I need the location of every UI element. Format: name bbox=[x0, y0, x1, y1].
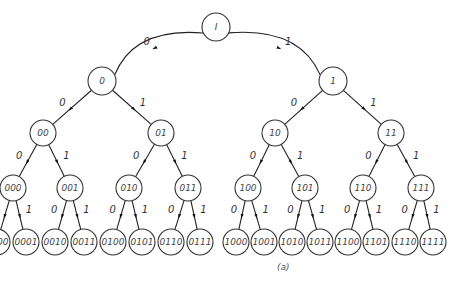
node-label: 01 bbox=[155, 128, 166, 138]
tree-node: 1011 bbox=[307, 229, 333, 255]
tree-edge bbox=[167, 145, 183, 177]
edge-label: 1 bbox=[319, 204, 325, 215]
edge-label: 1 bbox=[181, 150, 187, 161]
tree-node: 0101 bbox=[129, 229, 155, 255]
edge-label: 1 bbox=[285, 36, 291, 47]
node-label: 101 bbox=[296, 183, 313, 193]
tree-edge bbox=[252, 200, 261, 229]
tree-node: 0000 bbox=[0, 229, 10, 255]
tree-node: 10 bbox=[262, 120, 288, 146]
tree-node: 011 bbox=[175, 175, 201, 201]
tree-node: 01 bbox=[148, 120, 174, 146]
node-label: 1 bbox=[330, 76, 336, 86]
edge-label: 0 bbox=[291, 97, 297, 108]
node-label: 0001 bbox=[15, 237, 38, 247]
tree-node: 0011 bbox=[71, 229, 97, 255]
tree-node: 110 bbox=[350, 175, 376, 201]
tree-edge bbox=[16, 201, 23, 230]
edge-label: 1 bbox=[376, 204, 382, 215]
node-label: 0111 bbox=[189, 237, 212, 247]
tree-edge bbox=[351, 201, 359, 230]
edge-label: 1 bbox=[433, 204, 439, 215]
tree-node: 001 bbox=[57, 175, 83, 201]
edge-label: 0 bbox=[133, 150, 139, 161]
edge-label: 0 bbox=[365, 150, 371, 161]
node-label: 0110 bbox=[160, 237, 183, 247]
node-label: 0101 bbox=[131, 237, 154, 247]
tree-edge bbox=[366, 201, 373, 230]
edge-label: 0 bbox=[344, 204, 350, 215]
arrow-icon bbox=[276, 47, 279, 48]
node-label: 0100 bbox=[102, 237, 125, 247]
figure-caption: (a) bbox=[277, 262, 290, 272]
edge-label: 1 bbox=[370, 97, 376, 108]
edge-label: 0 bbox=[402, 204, 408, 215]
node-label: 011 bbox=[179, 183, 196, 193]
edge-label: 0 bbox=[59, 97, 65, 108]
edge-label: 1 bbox=[142, 204, 148, 215]
tree-edge bbox=[191, 201, 197, 230]
node-label: 0000 bbox=[0, 237, 9, 247]
tree-edge bbox=[409, 200, 418, 229]
node-label: 1101 bbox=[365, 237, 388, 247]
edge-label: 0 bbox=[16, 150, 22, 161]
tree-node: 1111 bbox=[420, 229, 446, 255]
tree-node: 1110 bbox=[392, 229, 418, 255]
node-label: 1010 bbox=[281, 237, 304, 247]
tree-node: 1 bbox=[319, 67, 347, 95]
edge-label: 1 bbox=[200, 204, 206, 215]
tree-edge bbox=[1, 200, 10, 229]
tree-node: I bbox=[202, 13, 230, 41]
node-label: 0 bbox=[99, 76, 105, 86]
node-label: 1011 bbox=[309, 237, 332, 247]
tree-node: 000 bbox=[0, 175, 26, 201]
tree-node: 0100 bbox=[100, 229, 126, 255]
tree-node: 010 bbox=[116, 175, 142, 201]
edge-label: 0 bbox=[231, 204, 237, 215]
tree-edge bbox=[229, 32, 321, 75]
nodes: I010001101100000101001110010111011100000… bbox=[0, 13, 446, 255]
tree-edge bbox=[295, 201, 302, 230]
tree-node: 0111 bbox=[187, 229, 213, 255]
tree-edge bbox=[175, 200, 184, 229]
edge-label: 1 bbox=[83, 204, 89, 215]
tree-node: 111 bbox=[408, 175, 434, 201]
edge-label: 1 bbox=[140, 97, 146, 108]
edge-label: 1 bbox=[262, 204, 268, 215]
tree-node: 0110 bbox=[158, 229, 184, 255]
tree-edge bbox=[49, 145, 65, 177]
node-label: 1001 bbox=[253, 237, 276, 247]
tree-node: 101 bbox=[292, 175, 318, 201]
tree-node: 0010 bbox=[42, 229, 68, 255]
node-label: 00 bbox=[37, 128, 49, 138]
tree-node: 0001 bbox=[13, 229, 39, 255]
edge-label: 0 bbox=[168, 204, 174, 215]
edge-label: 0 bbox=[250, 150, 256, 161]
tree-node: 0 bbox=[88, 67, 116, 95]
edge-label: 0 bbox=[287, 204, 293, 215]
edge-label: 0 bbox=[110, 204, 116, 215]
node-label: 10 bbox=[269, 128, 281, 138]
node-label: 110 bbox=[354, 183, 371, 193]
tree-node: 00 bbox=[30, 120, 56, 146]
tree-edge bbox=[117, 200, 126, 229]
tree-edge bbox=[73, 201, 80, 230]
tree-edge bbox=[115, 32, 204, 75]
node-label: 1110 bbox=[394, 237, 417, 247]
tree-node: 1101 bbox=[363, 229, 389, 255]
node-label: 11 bbox=[385, 128, 396, 138]
edge-label: 1 bbox=[413, 150, 419, 161]
tree-edge bbox=[424, 201, 430, 230]
edge-label: 1 bbox=[63, 150, 69, 161]
node-label: 111 bbox=[412, 183, 429, 193]
binary-tree-diagram: 010101010101010101010101010101 I01000110… bbox=[0, 0, 473, 289]
tree-node: 11 bbox=[378, 120, 404, 146]
node-label: 1111 bbox=[422, 237, 445, 247]
node-label: 1000 bbox=[225, 237, 248, 247]
tree-edge bbox=[58, 201, 66, 230]
tree-edge bbox=[132, 201, 139, 230]
tree-edge bbox=[308, 201, 316, 230]
edge-label: 0 bbox=[144, 36, 150, 47]
tree-edge bbox=[239, 201, 245, 230]
node-label: I bbox=[215, 22, 218, 32]
